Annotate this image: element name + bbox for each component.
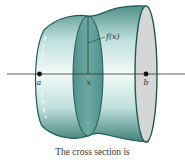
- point-b-label: b: [144, 78, 149, 87]
- point-x-label: x: [87, 78, 92, 87]
- point-b-dot: [144, 72, 149, 77]
- solid-of-revolution-diagram: f(x) a x b: [0, 0, 185, 163]
- figure-caption: The cross section is: [0, 147, 185, 157]
- function-label: f(x): [105, 32, 120, 41]
- point-a-dot: [37, 72, 42, 77]
- point-a-label: a: [37, 78, 42, 87]
